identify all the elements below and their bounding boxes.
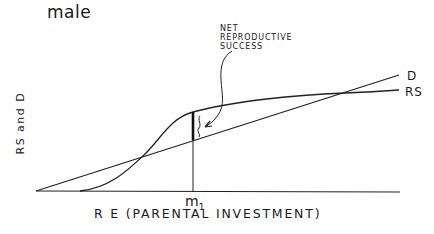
wavy-bracket-icon — [198, 116, 200, 137]
arrowhead-icon — [205, 121, 212, 127]
annotation-arrow — [205, 51, 232, 127]
rs-curve — [80, 90, 399, 191]
x-axis-line — [36, 191, 400, 192]
diagram-canvas — [0, 0, 434, 234]
